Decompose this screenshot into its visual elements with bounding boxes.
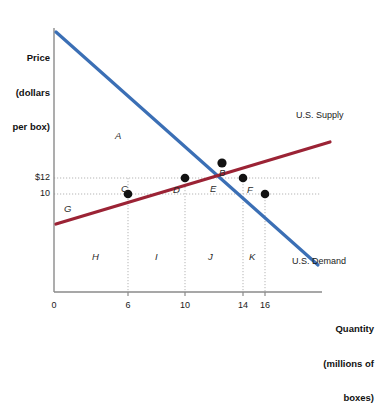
demand-curve-label: U.S. Demand — [292, 256, 346, 266]
x-tick-label-14: 14 — [233, 300, 253, 310]
point-demand-16 — [261, 190, 270, 199]
grid-lines — [54, 178, 320, 292]
y-tick-label-12: $12 — [8, 172, 50, 182]
point-demand-14 — [239, 174, 248, 183]
region-label-b: B — [219, 167, 225, 178]
region-label-i: I — [155, 251, 158, 262]
x-tick-label-0: 0 — [44, 300, 64, 310]
supply-curve-label: U.S. Supply — [296, 110, 344, 120]
x-axis-title: Quantity (millions of boxes) — [288, 300, 374, 407]
point-supply-10 — [181, 174, 190, 183]
x-tick-label-10: 10 — [175, 300, 195, 310]
x-tick-label-6: 6 — [118, 300, 138, 310]
region-label-e: E — [210, 183, 216, 194]
region-label-d: D — [173, 184, 180, 195]
x-tick-label-16: 16 — [255, 300, 275, 310]
y-axis-title-line-1: Price — [2, 52, 50, 64]
region-label-h: H — [92, 251, 99, 262]
y-tick-label-10: 10 — [8, 188, 50, 198]
y-axis-title: Price (dollars per box) — [2, 29, 50, 156]
y-axis-title-line-3: per box) — [2, 121, 50, 133]
demand-curve — [56, 32, 318, 265]
region-label-f: F — [247, 184, 253, 195]
region-label-j: J — [208, 251, 213, 262]
x-axis-title-line-2: (millions of — [288, 358, 374, 370]
region-label-c: C — [121, 183, 128, 194]
region-label-a: A — [115, 130, 121, 141]
x-axis-title-line-3: boxes) — [288, 392, 374, 404]
region-label-k: K — [249, 251, 255, 262]
y-axis-title-line-2: (dollars — [2, 87, 50, 99]
x-axis-title-line-1: Quantity — [288, 323, 374, 335]
region-label-g: G — [64, 203, 71, 214]
